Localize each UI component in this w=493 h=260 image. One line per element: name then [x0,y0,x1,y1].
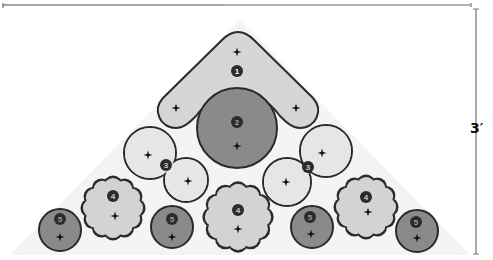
plant-5-4: 5 [396,210,438,252]
plant-2-circle: 2 [197,88,277,168]
svg-text:3: 3 [306,163,311,172]
dimension-label: 3′ [470,120,483,136]
svg-text:4: 4 [111,192,116,201]
plant-5-2: 5 [151,206,193,248]
svg-text:5: 5 [58,215,63,224]
planting-diagram: 1 2 3 3 [0,0,493,260]
plant-5-3: 5 [291,206,333,248]
svg-text:5: 5 [414,218,419,227]
svg-text:3: 3 [164,161,169,170]
top-dimension-line [3,3,471,8]
svg-text:1: 1 [235,67,240,76]
svg-text:4: 4 [364,193,369,202]
svg-text:5: 5 [170,215,175,224]
plant-5-1: 5 [39,209,81,251]
svg-text:5: 5 [308,213,313,222]
svg-text:2: 2 [235,118,240,127]
svg-text:4: 4 [236,206,241,215]
